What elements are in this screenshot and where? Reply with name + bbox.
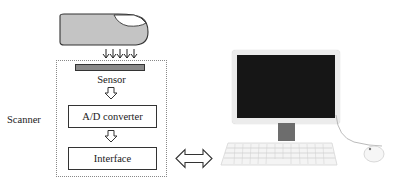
scanner-label: Scanner — [7, 114, 41, 125]
monitor-stand — [278, 123, 295, 141]
keyboard-icon — [220, 142, 338, 167]
finger-icon — [58, 12, 150, 48]
interface-label: Interface — [94, 153, 131, 164]
interface-box: Interface — [68, 147, 157, 170]
ad-converter-box: A/D converter — [68, 105, 157, 128]
down-arrow-icon — [104, 87, 118, 100]
bidirectional-arrow-icon — [175, 148, 213, 169]
monitor — [232, 50, 340, 124]
down-arrow-icon — [104, 130, 118, 143]
sensor-label: Sensor — [56, 74, 167, 85]
computer-illustration — [215, 45, 390, 175]
finger-scan-arrows-icon — [102, 48, 142, 60]
monitor-screen — [237, 55, 335, 118]
sensor-bar — [75, 64, 145, 71]
mouse-icon — [362, 144, 386, 164]
ad-converter-label: A/D converter — [82, 111, 142, 122]
